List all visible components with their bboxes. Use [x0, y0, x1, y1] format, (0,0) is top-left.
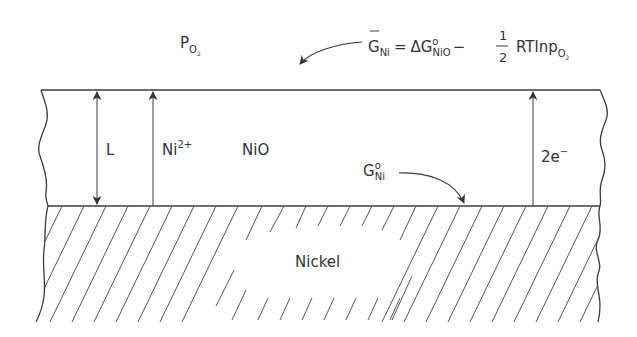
electron-flux: 2e−: [533, 92, 568, 206]
thickness-indicator: L: [97, 92, 115, 204]
svg-text:L: L: [106, 141, 115, 159]
svg-text:PO2: PO2: [180, 34, 201, 57]
surface-pointer-arrow: [300, 42, 362, 64]
svg-text:2e−: 2e−: [541, 146, 568, 166]
nickel-cation-flux: Ni2+: [153, 92, 192, 206]
svg-text:RTlnpO2: RTlnpO2: [516, 38, 570, 61]
left-break-edge: [36, 90, 48, 322]
oxide-layer-label: NiO: [242, 141, 269, 159]
svg-text:Ni2+: Ni2+: [162, 139, 192, 159]
metal-label: Nickel: [295, 253, 340, 271]
metal-free-energy-label: GoNi: [363, 160, 464, 203]
oxygen-partial-pressure-label: PO2: [180, 34, 201, 57]
surface-free-energy-equation: GNi=ΔGoNiO− 1 2 RTlnpO2: [368, 28, 570, 65]
svg-text:1: 1: [499, 28, 507, 43]
svg-text:2: 2: [499, 50, 507, 65]
nickel-oxidation-diagram: PO2 GNi=ΔGoNiO− 1 2 RTlnpO2 L Ni2+ NiO: [0, 0, 637, 337]
svg-text:GoNi: GoNi: [363, 160, 385, 182]
svg-text:GNi=ΔGoNiO−: GNi=ΔGoNiO−: [368, 36, 465, 58]
